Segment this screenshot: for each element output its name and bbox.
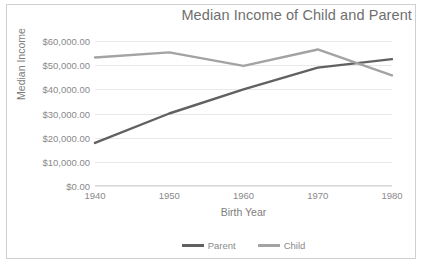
x-axis-tick-label: 1980 [362,190,422,201]
chart-legend: ParentChild [95,240,392,251]
x-axis-tick-label: 1970 [288,190,348,201]
y-axis-tick-label: $50,000.00 [18,60,90,71]
x-axis-tick-label: 1950 [139,190,199,201]
y-axis-tick-label: $40,000.00 [18,84,90,95]
legend-entry-parent[interactable]: Parent [182,240,236,251]
y-axis-tick-label: $60,000.00 [18,36,90,47]
y-axis-tick-label: $30,000.00 [18,108,90,119]
series-line-child [95,49,392,75]
y-axis-tick-label: $10,000.00 [18,156,90,167]
legend-label: Child [284,240,306,251]
x-axis-tick-label: 1940 [65,190,125,201]
legend-swatch-parent [182,244,204,247]
x-axis-title: Birth Year [95,206,392,218]
legend-entry-child[interactable]: Child [258,240,306,251]
gridline [95,186,392,187]
plot-area [95,41,392,186]
chart-title: Median Income of Child and Parent [150,7,412,23]
x-axis-tick-label: 1960 [214,190,274,201]
legend-label: Parent [208,240,236,251]
chart-figure: Median Income of Child and Parent Median… [0,0,424,266]
x-axis-tick-labels: 19401950196019701980 [95,190,392,204]
y-axis-tick-label: $20,000.00 [18,132,90,143]
series-line-parent [95,59,392,143]
y-axis-tick-labels: $60,000.00$50,000.00$40,000.00$30,000.00… [16,41,90,186]
legend-swatch-child [258,244,280,247]
series-lines [95,41,392,186]
